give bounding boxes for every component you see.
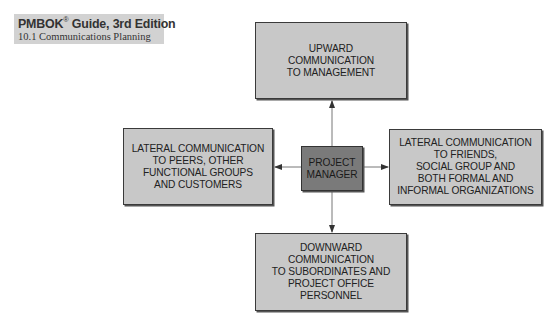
lateral-friends-label: LATERAL COMMUNICATION TO FRIENDS, SOCIAL…	[397, 137, 533, 197]
project-manager-box: PROJECT MANAGER	[301, 146, 363, 191]
lateral-friends-box: LATERAL COMMUNICATION TO FRIENDS, SOCIAL…	[389, 129, 542, 205]
lateral-peers-box: LATERAL COMMUNICATION TO PEERS, OTHER FU…	[123, 128, 273, 205]
upward-communication-box: UPWARD COMMUNICATION TO MANAGEMENT	[255, 22, 407, 99]
downward-label: DOWNWARD COMMUNICATION TO SUBORDINATES A…	[272, 242, 390, 302]
lateral-peers-label: LATERAL COMMUNICATION TO PEERS, OTHER FU…	[132, 143, 264, 191]
downward-communication-box: DOWNWARD COMMUNICATION TO SUBORDINATES A…	[255, 233, 407, 311]
project-manager-label: PROJECT MANAGER	[307, 157, 358, 181]
upward-label: UPWARD COMMUNICATION TO MANAGEMENT	[287, 43, 376, 79]
